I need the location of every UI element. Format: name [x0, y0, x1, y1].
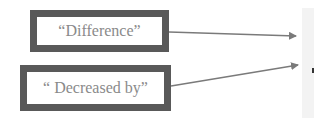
- arrow-difference: [169, 32, 296, 36]
- right-panel: [302, 8, 314, 118]
- decreased-by-box: “ Decreased by”: [20, 65, 171, 111]
- panel-mark: [312, 68, 314, 73]
- difference-label: “Difference”: [58, 22, 140, 40]
- arrow-decreased-by: [171, 65, 298, 86]
- difference-box: “Difference”: [30, 10, 169, 52]
- decreased-by-label: “ Decreased by”: [43, 79, 148, 97]
